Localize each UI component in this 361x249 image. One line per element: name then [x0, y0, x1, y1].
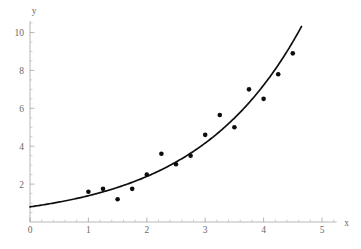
- y-axis-tick-label: 4: [19, 142, 24, 152]
- x-axis-tick-label: 2: [144, 225, 149, 235]
- y-axis-tick-label: 6: [19, 104, 24, 114]
- x-axis-tick-label: 4: [261, 225, 266, 235]
- data-point: [203, 133, 208, 138]
- data-point: [174, 162, 179, 167]
- x-axis-tick-label: 3: [203, 225, 208, 235]
- data-point: [101, 187, 106, 192]
- data-point: [86, 189, 91, 194]
- data-point: [232, 125, 237, 130]
- data-point: [218, 113, 223, 118]
- data-point: [276, 72, 281, 77]
- y-axis-title: y: [32, 6, 37, 16]
- x-axis-tick-label: 0: [28, 225, 33, 235]
- data-point: [291, 51, 296, 56]
- y-axis-tick-label: 2: [19, 180, 24, 190]
- data-point: [130, 187, 135, 192]
- data-point: [115, 197, 120, 202]
- data-point: [188, 153, 193, 158]
- x-axis-tick-label: 1: [86, 225, 91, 235]
- data-point: [261, 97, 266, 102]
- y-axis-tick-label: 8: [19, 66, 24, 76]
- data-point: [247, 87, 252, 92]
- y-axis-tick-label: 10: [15, 28, 25, 38]
- scatter-plot-figure: 012345246810xy: [0, 0, 361, 249]
- plot-canvas: 012345246810xy: [0, 0, 361, 249]
- data-point: [159, 151, 164, 156]
- fit-curve: [30, 26, 302, 206]
- x-axis-title: x: [344, 218, 349, 228]
- x-axis-tick-label: 5: [320, 225, 325, 235]
- data-point: [145, 172, 150, 177]
